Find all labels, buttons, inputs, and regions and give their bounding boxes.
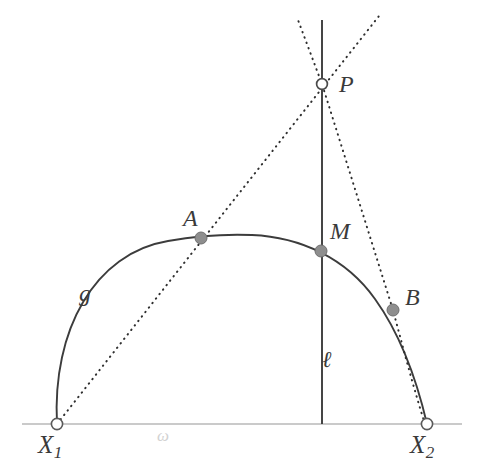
label-point-a: A bbox=[183, 206, 198, 230]
point-p-marker bbox=[317, 79, 328, 90]
point-b-marker bbox=[387, 304, 399, 316]
label-point-b: B bbox=[405, 285, 420, 309]
label-point-x2: X2 bbox=[410, 432, 434, 461]
label-x1-base: X bbox=[38, 431, 53, 458]
label-point-x1: X1 bbox=[38, 432, 62, 461]
label-point-p: P bbox=[339, 72, 354, 96]
diagram-canvas bbox=[0, 0, 484, 476]
geometry-figure: P A M B g ℓ ω X1 X2 bbox=[0, 0, 484, 476]
point-x1-marker bbox=[51, 418, 62, 429]
label-point-m: M bbox=[330, 219, 350, 243]
label-x2-subscript: 2 bbox=[426, 443, 435, 462]
label-x2-base: X bbox=[410, 431, 425, 458]
point-a-marker bbox=[195, 232, 207, 244]
point-x2-marker bbox=[421, 418, 432, 429]
label-x1-subscript: 1 bbox=[54, 443, 63, 462]
label-baseline-omega: ω bbox=[157, 427, 169, 444]
point-m-marker bbox=[315, 245, 327, 257]
label-line-l: ℓ bbox=[322, 348, 332, 371]
arc-g bbox=[57, 235, 427, 424]
label-arc-g: g bbox=[79, 281, 91, 305]
